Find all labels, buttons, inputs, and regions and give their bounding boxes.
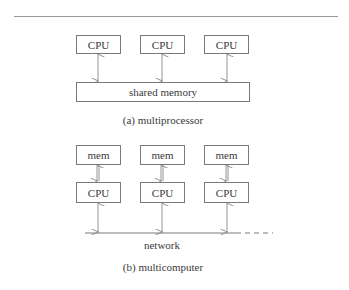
mem-box-b-3: mem bbox=[204, 145, 249, 165]
cpu-box-a-3: CPU bbox=[204, 35, 249, 54]
mem-box-b-1: mem bbox=[76, 145, 121, 165]
cpu-box-a-1: CPU bbox=[76, 35, 121, 54]
shared-memory-box: shared memory bbox=[76, 82, 250, 102]
cpu-box-a-2: CPU bbox=[140, 35, 185, 54]
caption-multiprocessor: (a) multiprocessor bbox=[76, 114, 250, 126]
caption-multicomputer: (b) multicomputer bbox=[76, 261, 250, 273]
mem-box-b-2: mem bbox=[140, 145, 185, 165]
cpu-box-b-2: CPU bbox=[140, 182, 185, 203]
cpu-box-b-3: CPU bbox=[204, 182, 249, 203]
network-label: network bbox=[120, 239, 204, 251]
cpu-box-b-1: CPU bbox=[76, 182, 121, 203]
